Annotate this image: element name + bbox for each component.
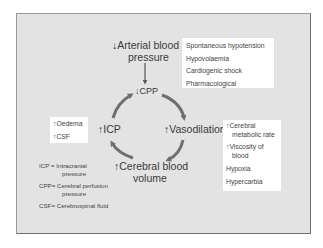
node-cpp: ↓CPP [135, 86, 158, 96]
cause-item: ↑CSF [53, 131, 88, 144]
cause-item: Spontaneous hypotension [186, 40, 274, 53]
cause-item: Hypoxia [226, 163, 281, 176]
cause-item: ↑Viscosity of [226, 142, 281, 151]
arrow-icp-to-cpp [113, 95, 131, 118]
node-vasodilation: ↑Vasodilation [164, 124, 226, 135]
node-cerebral-blood-volume-line2: volume [133, 173, 167, 184]
arrow-cpp-to-vasodilation [162, 95, 184, 118]
cause-item: ↑Cerebral [226, 121, 281, 130]
legend-item: CSF= Cerebrospinal fluid [39, 202, 108, 210]
cause-item: Hypovolaemia [186, 53, 274, 66]
cause-item: ↑Oedema [53, 118, 88, 131]
abbreviation-legend: ICP = Intracranial pressure CPP= Cerebra… [39, 162, 108, 210]
node-arterial-bp-line2: pressure [128, 52, 169, 63]
cause-item: Cardiogenic shock [186, 65, 274, 78]
node-icp: ↑ICP [98, 124, 121, 135]
legend-item: CPP= Cerebral perfusion [39, 182, 108, 190]
legend-item: ICP = Intracranial [39, 162, 108, 170]
node-arterial-bp: ↓Arterial blood [112, 40, 179, 51]
arrow-cbv-to-icp [112, 143, 133, 158]
box-causes-low-bp: Spontaneous hypotension Hypovolaemia Car… [182, 38, 274, 88]
box-causes-vasodilation: ↑Cerebral metabolic rate ↑Viscosity of b… [223, 120, 281, 191]
node-cerebral-blood-volume: ↑Cerebral blood [114, 161, 188, 172]
arrow-vasodilation-to-cbv [168, 140, 183, 160]
cause-item: Hypercarbia [226, 176, 281, 189]
box-causes-icp: ↑Oedema ↑CSF [50, 117, 88, 143]
cause-item: Pharmacological [186, 78, 274, 91]
